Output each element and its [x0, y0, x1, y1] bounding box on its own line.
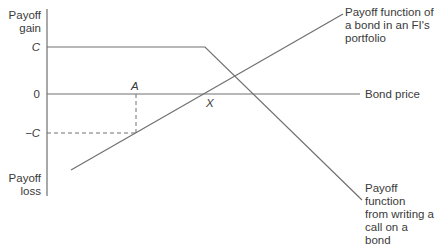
- y-top-label-line1: Payoff: [0, 9, 41, 22]
- bond-annotation-line1: Payoff function of: [345, 6, 434, 19]
- bond-annotation-line2: a bond in an FI's: [345, 19, 434, 32]
- bond-annotation-line3: portfolio: [345, 32, 434, 45]
- y-top-label-line2: gain: [0, 22, 41, 35]
- call-annotation-line3: call on a bond: [365, 221, 436, 247]
- point-x-label: X: [206, 97, 214, 110]
- tick-neg-c: −C: [0, 127, 40, 140]
- bond-annotation: Payoff function of a bond in an FI's por…: [345, 6, 434, 45]
- y-bottom-label-line1: Payoff: [0, 172, 41, 185]
- tick-c: C: [0, 41, 40, 54]
- y-bottom-label-line2: loss: [0, 185, 41, 198]
- call-annotation: Payoff function from writing a call on a…: [365, 182, 436, 247]
- y-axis-bottom-label: Payoff loss: [0, 172, 41, 198]
- x-axis-label: Bond price: [365, 88, 420, 101]
- tick-zero: 0: [0, 88, 40, 101]
- y-axis-top-label: Payoff gain: [0, 9, 41, 35]
- bond-payoff-line: [71, 14, 343, 170]
- point-a-label: A: [131, 80, 139, 93]
- call-payoff-line: [47, 47, 362, 200]
- call-annotation-line1: Payoff function: [365, 182, 436, 208]
- call-annotation-line2: from writing a: [365, 208, 436, 221]
